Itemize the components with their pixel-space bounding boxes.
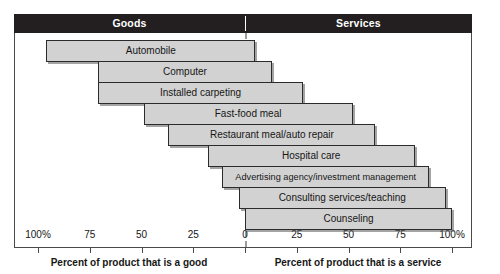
bar-row: Installed carpeting <box>98 82 303 104</box>
axis-tick-label: 75 <box>68 228 112 241</box>
axis-tick-mark <box>142 248 143 253</box>
bar-label: Advertising agency/investment management <box>223 167 428 187</box>
bar-row: Advertising agency/investment management <box>222 166 429 188</box>
bar-label: Fast-food meal <box>145 104 352 124</box>
bar-row: Fast-food meal <box>144 103 353 125</box>
axis-tick-mark <box>349 248 350 253</box>
axis-tick-mark <box>38 248 39 253</box>
bar-row: Counseling <box>245 208 452 230</box>
axis-tick-mark <box>90 248 91 253</box>
header-band: Goods Services <box>14 14 472 33</box>
bar-row: Automobile <box>46 40 255 62</box>
axis-tick-mark <box>245 248 246 253</box>
bar-label: Computer <box>99 62 271 82</box>
bar-label: Restaurant meal/auto repair <box>169 125 374 145</box>
header-label-services: Services <box>245 14 472 33</box>
axis-caption-service: Percent of product that is a service <box>244 256 472 270</box>
axis-tick-label: 50 <box>120 228 164 241</box>
axis-tick-mark <box>193 248 194 253</box>
axis-tick-mark <box>452 248 453 253</box>
bar-label: Hospital care <box>209 146 414 166</box>
x-axis-line <box>15 247 471 248</box>
axis-tick-mark <box>297 248 298 253</box>
bar-row: Hospital care <box>208 145 415 167</box>
axis-caption-good: Percent of product that is a good <box>14 256 244 270</box>
bar-label: Installed carpeting <box>99 83 302 103</box>
header-label-goods: Goods <box>14 14 245 33</box>
plot-area: AutomobileComputerInstalled carpetingFas… <box>15 33 471 247</box>
bar-label: Consulting services/teaching <box>240 188 445 208</box>
bar-label: Automobile <box>47 41 254 61</box>
bar-row: Computer <box>98 61 272 83</box>
bar-label: Counseling <box>246 209 451 229</box>
bar-row: Restaurant meal/auto repair <box>168 124 375 146</box>
goods-services-continuum-figure: Goods Services AutomobileComputerInstall… <box>0 0 500 274</box>
axis-tick-label: 100% <box>16 228 60 241</box>
bar-row: Consulting services/teaching <box>239 187 446 209</box>
axis-tick-mark <box>400 248 401 253</box>
axis-tick-label: 25 <box>171 228 215 241</box>
